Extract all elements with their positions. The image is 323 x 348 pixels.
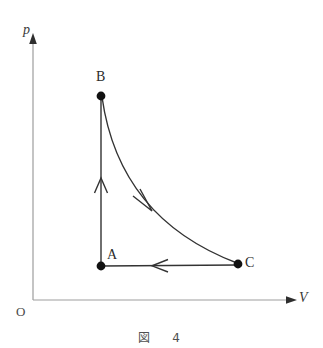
process-curve-b-to-c: [102, 97, 237, 263]
y-axis: [29, 33, 37, 300]
point-label-c: C: [245, 256, 254, 270]
y-axis-label: p: [23, 23, 30, 37]
figure-container: p V O A B C 図 4: [0, 0, 323, 348]
point-marker-a: [97, 262, 106, 271]
point-marker-c: [234, 260, 243, 269]
process-line-c-to-a: [102, 260, 237, 273]
x-axis-label: V: [299, 291, 308, 305]
point-label-b: B: [96, 70, 105, 84]
point-marker-b: [97, 92, 106, 101]
pv-diagram: [0, 0, 323, 348]
x-axis: [33, 296, 297, 304]
point-label-a: A: [107, 248, 117, 262]
y-axis-arrowhead: [29, 33, 37, 44]
figure-caption: 図 4: [0, 328, 323, 345]
x-axis-arrowhead: [286, 296, 297, 304]
process-line-a-to-b: [95, 96, 108, 266]
arrowhead-b-to-c: [133, 189, 152, 211]
origin-label: O: [16, 305, 25, 318]
